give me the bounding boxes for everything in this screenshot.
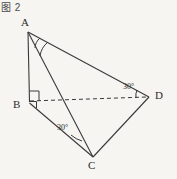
angle-label-D: 30° — [123, 83, 134, 91]
edge-AC — [28, 32, 93, 157]
vertex-label-A: A — [21, 17, 29, 28]
angle-arc-D — [136, 90, 137, 98]
edge-AB — [28, 32, 30, 102]
right-angle-marker-B — [30, 91, 39, 101]
edge-BD — [30, 97, 147, 101]
vertex-label-B: B — [13, 99, 20, 110]
edge-CD — [93, 97, 149, 157]
angle-arc-A — [40, 42, 48, 56]
vertex-label-C: C — [88, 160, 95, 171]
vertex-label-D: D — [155, 90, 163, 101]
angle-label-C: 30° — [57, 124, 68, 132]
